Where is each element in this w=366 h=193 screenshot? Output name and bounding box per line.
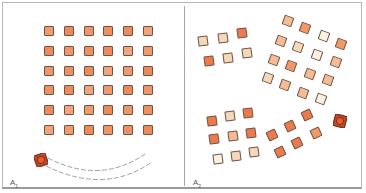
object-square (208, 133, 219, 144)
object-square (300, 108, 313, 121)
panel-label-a1: A1 (10, 178, 18, 189)
object-square (227, 130, 238, 141)
robot-icon (34, 153, 48, 167)
object-square (245, 127, 256, 138)
object-square (285, 60, 298, 73)
object-square (248, 146, 259, 157)
object-square (311, 49, 324, 62)
object-square (315, 93, 328, 106)
object-square (262, 72, 275, 85)
panel-a1: A1 (0, 0, 184, 193)
object-square (222, 52, 233, 63)
object-square (212, 153, 223, 164)
object-square (268, 54, 281, 67)
object-square (224, 110, 235, 121)
object-square (203, 55, 214, 66)
object-square (299, 22, 312, 35)
object-square (322, 74, 335, 87)
object-square (304, 68, 317, 81)
object-square (230, 150, 241, 161)
robot-trajectory (0, 0, 184, 193)
object-square (279, 79, 292, 92)
object-square (283, 119, 296, 132)
panel-a2: A2 (184, 0, 366, 193)
panel-label-a2: A2 (193, 178, 201, 189)
object-square (206, 115, 217, 126)
object-square (265, 128, 278, 141)
object-square (241, 47, 252, 58)
object-square (330, 56, 343, 69)
object-square (318, 30, 331, 43)
object-square (275, 35, 288, 48)
object-square (290, 136, 303, 149)
object-square (236, 27, 247, 38)
robot-icon (333, 114, 347, 128)
object-square (197, 35, 208, 46)
object-square (242, 107, 253, 118)
object-square (282, 15, 295, 28)
object-square (335, 38, 348, 51)
object-square (273, 145, 286, 158)
object-square (292, 41, 305, 54)
object-square (297, 87, 310, 100)
object-square (217, 32, 228, 43)
object-square (309, 126, 322, 139)
